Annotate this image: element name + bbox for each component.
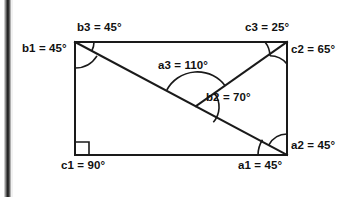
geometry-figure: [0, 0, 360, 197]
angle-label-a1: a1 = 45°: [238, 160, 282, 172]
right-angle-marker-c1: [75, 142, 89, 155]
angle-label-b1: b1 = 45°: [22, 43, 67, 55]
angle-arc-b1: [75, 56, 97, 68]
angle-label-c2: c2 = 65°: [291, 44, 335, 56]
angle-label-b3: b3 = 45°: [77, 22, 122, 34]
angle-arc-c3: [265, 42, 270, 56]
angle-arc-a1: [258, 140, 263, 155]
angle-label-a3: a3 = 110°: [158, 60, 208, 72]
diagram-page: b3 = 45° c3 = 25° b1 = 45° c2 = 65° a3 =…: [0, 0, 360, 197]
angle-label-c3: c3 = 25°: [245, 22, 289, 34]
angle-arc-c2: [270, 56, 287, 64]
angle-arc-a2: [269, 134, 287, 145]
angle-label-a2: a2 = 45°: [291, 140, 335, 152]
angle-arc-b3: [92, 42, 94, 51]
angle-arc-a3: [167, 72, 226, 90]
angle-label-b2: b2 = 70°: [206, 92, 251, 104]
angle-label-c1: c1 = 90°: [61, 160, 105, 172]
